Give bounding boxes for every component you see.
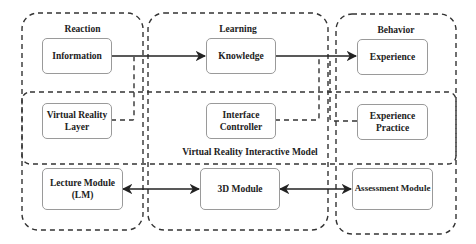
- node-assessment-label: Assessment Module: [355, 183, 431, 195]
- node-practice-label: ExperiencePractice: [370, 110, 415, 135]
- node-practice-line1: Experience: [370, 111, 415, 121]
- node-interface-controller: InterfaceController: [206, 103, 276, 139]
- practice-connector: [330, 57, 357, 121]
- node-vr-layer-line2: Layer: [65, 122, 89, 132]
- node-knowledge-label: Knowledge: [218, 50, 263, 62]
- node-vr-layer: Virtual RealityLayer: [42, 103, 112, 139]
- node-interface-label: InterfaceController: [220, 109, 263, 134]
- node-interface-line1: Interface: [223, 110, 260, 120]
- node-3d-label: 3D Module: [217, 183, 262, 195]
- node-practice-line2: Practice: [376, 123, 409, 133]
- node-knowledge: Knowledge: [206, 38, 276, 74]
- node-vr-layer-label: Virtual RealityLayer: [47, 109, 108, 134]
- node-information: Information: [42, 38, 112, 74]
- node-lecture-line2: (LM): [72, 190, 94, 200]
- interface-connector: [275, 57, 319, 120]
- node-information-label: Information: [52, 50, 102, 62]
- group-label-learning: Learning: [148, 24, 328, 36]
- node-assessment-module: Assessment Module: [352, 168, 433, 210]
- group-label-vr-model: Virtual Reality Interactive Model: [120, 147, 380, 159]
- node-experience: Experience: [357, 39, 428, 75]
- node-experience-label: Experience: [370, 51, 415, 63]
- node-lecture-line1: Lecture Module: [50, 178, 115, 188]
- group-label-behavior: Behavior: [336, 25, 456, 37]
- node-3d-module: 3D Module: [200, 168, 280, 210]
- node-experience-practice: ExperiencePractice: [357, 104, 428, 140]
- node-interface-line2: Controller: [220, 122, 263, 132]
- vr-layer-connector: [111, 57, 134, 120]
- node-lecture-module: Lecture Module(LM): [42, 168, 123, 210]
- group-label-reaction: Reaction: [22, 24, 143, 36]
- node-lecture-label: Lecture Module(LM): [50, 177, 115, 202]
- node-vr-layer-line1: Virtual Reality: [47, 110, 108, 120]
